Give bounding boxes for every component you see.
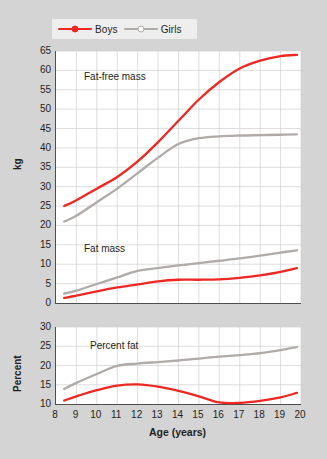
y-axis-title-mass: kg — [12, 158, 23, 170]
x-tick-label: 20 — [294, 410, 305, 420]
y-tick-label: 15 — [31, 380, 51, 390]
x-tick-label: 16 — [213, 410, 224, 420]
y-tick-label: 65 — [31, 46, 51, 56]
x-tick-label: 8 — [52, 410, 58, 420]
y-tick-label: 40 — [31, 143, 51, 153]
series-line-girls-percent-fat — [64, 347, 297, 389]
legend-marker-girls-icon — [124, 24, 158, 34]
y-tick-label: 20 — [31, 361, 51, 371]
y-tick-label: 25 — [31, 201, 51, 211]
annotation-percent-fat: Percent fat — [90, 340, 138, 351]
y-tick-label: 30 — [31, 182, 51, 192]
plot-canvas-percent — [56, 327, 301, 404]
x-axis-title: Age (years) — [55, 426, 300, 438]
y-tick-label: 20 — [31, 220, 51, 230]
x-tick-label: 13 — [152, 410, 163, 420]
x-tick-label: 19 — [274, 410, 285, 420]
plot-panel-percent — [55, 327, 301, 405]
legend-label-boys: Boys — [95, 24, 118, 35]
x-tick-label: 14 — [172, 410, 183, 420]
y-tick-label: 35 — [31, 162, 51, 172]
annotation-fat-mass: Fat mass — [84, 243, 125, 254]
x-tick-label: 12 — [131, 410, 142, 420]
y-axis-title-percent: Percent — [12, 355, 23, 392]
y-tick-label: 10 — [31, 259, 51, 269]
y-tick-label: 50 — [31, 104, 51, 114]
chart-figure: Boys Girls 05101520253035404550556065 10… — [0, 0, 327, 459]
legend-item-girls: Girls — [124, 24, 182, 35]
y-axis-ticks-mass: 05101520253035404550556065 — [29, 51, 51, 303]
y-tick-label: 30 — [31, 322, 51, 332]
x-tick-label: 15 — [192, 410, 203, 420]
chart-legend: Boys Girls — [52, 19, 197, 39]
plot-panel-mass — [55, 51, 301, 304]
series-line-girls-fat-free-mass — [64, 134, 297, 221]
y-axis-ticks-percent: 1015202530 — [29, 327, 51, 404]
plot-canvas-mass — [56, 51, 301, 303]
x-tick-label: 18 — [254, 410, 265, 420]
x-tick-label: 10 — [90, 410, 101, 420]
x-tick-label: 11 — [111, 410, 121, 420]
series-line-boys-percent-fat — [64, 384, 297, 403]
y-tick-label: 0 — [31, 298, 51, 308]
x-tick-label: 9 — [73, 410, 79, 420]
y-tick-label: 5 — [31, 279, 51, 289]
legend-marker-boys-icon — [58, 24, 92, 34]
y-tick-label: 25 — [31, 341, 51, 351]
y-tick-label: 60 — [31, 65, 51, 75]
y-tick-label: 45 — [31, 124, 51, 134]
y-tick-label: 55 — [31, 85, 51, 95]
y-tick-label: 10 — [31, 399, 51, 409]
series-line-girls-fat-mass — [64, 250, 297, 293]
x-tick-label: 17 — [233, 410, 244, 420]
legend-item-boys: Boys — [58, 24, 118, 35]
legend-label-girls: Girls — [161, 24, 182, 35]
annotation-fat-free-mass: Fat-free mass — [84, 71, 146, 82]
y-tick-label: 15 — [31, 240, 51, 250]
